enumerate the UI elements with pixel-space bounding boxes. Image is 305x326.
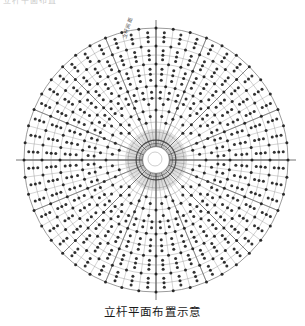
- figure-caption: 立杆平面布置示意: [0, 303, 305, 319]
- scaffold-plan-drawing: [0, 0, 305, 305]
- radial-plan-svg: [0, 0, 305, 305]
- drawing-page: 立杆平面布置 立杆间距 立杆平面布置示意: [0, 0, 305, 326]
- center-hub-group: [125, 129, 187, 191]
